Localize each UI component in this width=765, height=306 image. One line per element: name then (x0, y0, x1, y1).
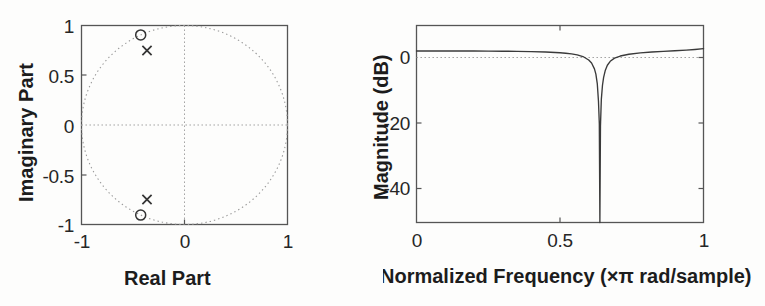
x-axis-title: Real Part (124, 268, 211, 288)
pole-marker (142, 195, 151, 204)
y-tick-label: 0 (31, 117, 74, 136)
pole-zero-canvas (0, 0, 383, 306)
x-axis-title-clip: Normalized Frequency (×π rad/sample) (383, 266, 765, 294)
x-tick-label: 0 (396, 231, 438, 250)
magnitude-response-plot: 0 -20 -40 0 0.5 1 Normalized Frequency (… (383, 0, 765, 306)
pole-marker (142, 46, 151, 55)
magnitude-curve (417, 49, 704, 223)
y-tick-marks (417, 58, 704, 189)
pole-zero-plot: 1 0.5 0 -0.5 -1 -1 0 1 Real Part Imagina… (0, 0, 383, 306)
y-tick-label: 1 (31, 17, 74, 36)
plot-frame (417, 26, 704, 223)
x-tick-label: 1 (683, 231, 725, 250)
y-axis-title: Magnitude (dB) (371, 54, 391, 200)
magnitude-response-canvas (383, 0, 765, 306)
x-tick-label: -1 (61, 232, 103, 251)
y-tick-label: -0.5 (31, 167, 74, 186)
zero-marker (136, 210, 146, 220)
x-tick-label: 0 (164, 232, 206, 251)
x-axis-title: Normalized Frequency (×π rad/sample) (383, 266, 752, 286)
figure-page: 1 0.5 0 -0.5 -1 -1 0 1 Real Part Imagina… (0, 0, 765, 306)
y-tick-label: 0.5 (31, 67, 74, 86)
x-tick-label: 0.5 (539, 231, 581, 250)
x-tick-label: 1 (267, 232, 309, 251)
y-axis-title: Imaginary Part (16, 63, 36, 202)
